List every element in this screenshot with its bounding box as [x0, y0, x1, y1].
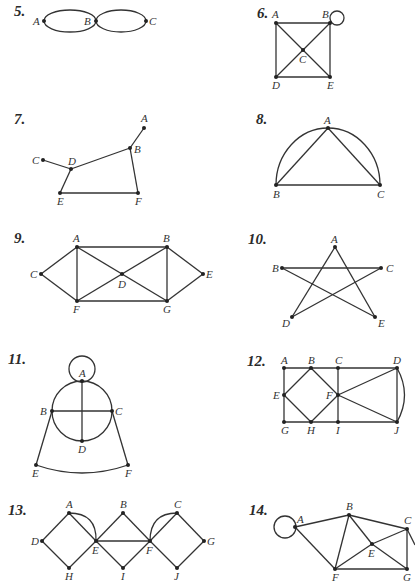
vertex-b — [50, 409, 54, 413]
vertex-label: C — [30, 268, 38, 280]
vertex-e — [282, 393, 286, 397]
problem-number: 12. — [247, 353, 266, 369]
vertex-label: D — [77, 443, 86, 455]
vertex-label: B — [163, 232, 170, 244]
vertex-label: A — [271, 8, 279, 20]
vertex-b — [128, 146, 132, 150]
vertex-label: F — [124, 467, 132, 479]
vertex-label: A — [65, 498, 73, 510]
vertex-label: E — [91, 544, 99, 556]
vertex-label: C — [149, 15, 157, 27]
problem-number: 11. — [8, 351, 26, 367]
vertex-label: A — [78, 367, 86, 379]
vertex-b — [121, 511, 125, 515]
vertex-label: E — [31, 467, 39, 479]
vertex-label: B — [40, 405, 47, 417]
vertex-label: B — [134, 143, 141, 155]
vertex-label: B — [322, 8, 329, 20]
vertex-b — [280, 266, 284, 270]
vertex-label: F — [72, 303, 80, 315]
vertex-e — [373, 315, 377, 319]
vertex-label: E — [367, 547, 375, 559]
vertex-label: B — [308, 354, 315, 366]
vertex-c — [144, 19, 148, 23]
vertex-a — [333, 245, 337, 249]
vertex-label: B — [273, 188, 280, 200]
graph-9: 9. A B C D E F G — [14, 230, 213, 315]
vertex-d — [40, 539, 44, 543]
vertex-label: D — [271, 79, 280, 91]
graph-10: 10. A B C D E — [248, 231, 394, 329]
vertex-label: J — [394, 424, 400, 436]
vertex-label: E — [272, 389, 280, 401]
graph-5: 5. A B C — [14, 3, 157, 32]
vertex-label: I — [335, 424, 341, 436]
vertex-b — [94, 19, 98, 23]
vertex-c — [405, 527, 409, 531]
vertex-label: G — [163, 303, 171, 315]
vertex-c — [175, 511, 179, 515]
vertex-label: F — [331, 571, 339, 582]
vertex-b — [165, 245, 169, 249]
vertex-label: B — [84, 15, 91, 27]
vertex-label: B — [120, 498, 127, 510]
vertex-c — [379, 266, 383, 270]
vertex-f — [148, 539, 152, 543]
vertex-b — [328, 21, 332, 25]
vertex-label: B — [272, 262, 279, 274]
vertex-b — [309, 366, 313, 370]
vertex-label: G — [207, 535, 215, 547]
problem-number: 13. — [8, 502, 27, 518]
vertex-label: C — [299, 53, 307, 65]
vertex-label: D — [392, 354, 401, 366]
vertex-a — [75, 245, 79, 249]
vertex-label: E — [326, 79, 334, 91]
graph-exercises-page: 5. A B C 6. A B C D E 7. — [0, 0, 415, 582]
graph-14: 14. A B C E F G — [249, 500, 415, 582]
graph-13: 13. A B C D E F G H I J — [8, 498, 215, 582]
vertex-c — [336, 366, 340, 370]
graph-6: 6. A B C D E — [257, 5, 344, 91]
vertex-label: B — [346, 500, 353, 512]
vertex-d — [120, 272, 124, 276]
graph-8: 8. A B C — [256, 111, 385, 200]
vertex-f — [336, 393, 340, 397]
vertex-d — [69, 167, 73, 171]
problem-number: 6. — [257, 5, 268, 21]
vertex-label: D — [67, 155, 76, 167]
vertex-a — [274, 21, 278, 25]
vertex-g — [202, 539, 206, 543]
vertex-d — [290, 315, 294, 319]
vertex-label: A — [323, 114, 331, 126]
vertex-label: J — [174, 570, 180, 582]
vertex-label: C — [174, 498, 182, 510]
vertex-label: C — [386, 262, 394, 274]
vertex-a — [142, 126, 146, 130]
vertex-label: E — [377, 317, 385, 329]
vertex-a — [42, 19, 46, 23]
vertex-label: H — [64, 570, 74, 582]
vertex-c — [301, 48, 305, 52]
vertex-label: E — [56, 195, 64, 207]
vertex-e — [94, 539, 98, 543]
vertex-label: F — [325, 389, 333, 401]
vertex-label: C — [377, 188, 385, 200]
vertex-label: H — [306, 424, 316, 436]
graph-11: 11. A B C D E F — [8, 351, 132, 479]
vertex-label: F — [145, 544, 153, 556]
vertex-a — [67, 511, 71, 515]
vertex-label: A — [296, 513, 304, 525]
graph-12: 12. A B C D E F G H I J — [247, 353, 405, 436]
vertex-label: A — [330, 233, 338, 245]
vertex-a — [326, 126, 330, 130]
vertex-label: A — [140, 112, 148, 124]
problem-number: 10. — [248, 231, 267, 247]
problem-number: 7. — [14, 111, 25, 127]
vertex-label: C — [32, 154, 40, 166]
problem-number: 9. — [14, 230, 25, 246]
problem-number: 14. — [249, 502, 268, 518]
vertex-b — [274, 183, 278, 187]
vertex-c — [41, 158, 45, 162]
vertex-d — [395, 366, 399, 370]
vertex-label: A — [32, 15, 40, 27]
